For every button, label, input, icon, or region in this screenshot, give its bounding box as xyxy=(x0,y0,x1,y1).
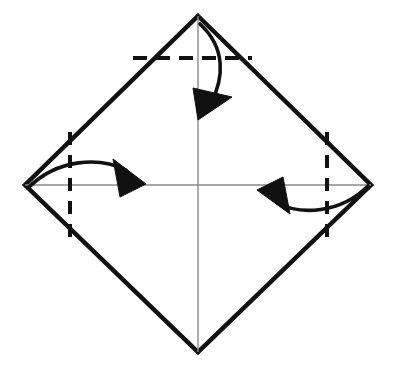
origami-diagram-canvas xyxy=(0,0,395,369)
origami-figure xyxy=(0,0,395,369)
